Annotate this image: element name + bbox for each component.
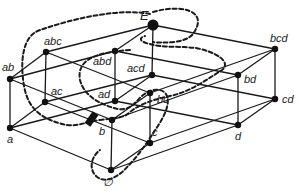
edge-E-acd	[152, 25, 153, 75]
node-bc	[147, 90, 153, 96]
label-ac: ac	[51, 85, 63, 97]
node-abd	[112, 48, 118, 54]
node-b	[109, 117, 115, 123]
label-ad: ad	[98, 88, 111, 100]
edge-cd-c	[150, 99, 275, 143]
node-ab	[7, 76, 13, 82]
node-acd	[149, 72, 155, 78]
label-empty: ∅	[103, 176, 113, 188]
label-ab: ab	[2, 61, 14, 73]
label-bd: bd	[244, 73, 257, 85]
label-acd: acd	[127, 62, 146, 74]
label-bcd: bcd	[270, 32, 289, 44]
node-cd	[272, 96, 278, 102]
node-d	[235, 122, 241, 128]
edge-ac-c	[45, 102, 150, 143]
label-b: b	[99, 125, 105, 137]
node-empty	[108, 167, 114, 173]
label-c: c	[152, 126, 158, 138]
node-E	[148, 20, 159, 31]
edge-acd-ad	[115, 75, 152, 101]
edge-abc-ac	[45, 52, 46, 102]
label-bc: bc	[157, 93, 169, 105]
label-abc: abc	[44, 35, 62, 47]
label-cd: cd	[282, 93, 295, 105]
label-a: a	[7, 133, 13, 145]
node-a	[7, 125, 13, 131]
edge-a-empty	[10, 128, 111, 170]
edge-cd-d	[238, 99, 275, 125]
edge-E-abc	[46, 25, 153, 52]
label-abd: abd	[93, 55, 112, 67]
edge-abc-ab	[10, 52, 46, 79]
lattice-diagram: E abc abd acd bcd ab ac ad bc bd cd a b …	[0, 0, 299, 195]
edge-E-bcd	[153, 25, 275, 49]
node-ad	[112, 98, 118, 104]
lattice-labels: E abc abd acd bcd ab ac ad bc bd cd a b …	[2, 8, 295, 188]
label-E: E	[140, 8, 149, 23]
node-abc	[43, 49, 49, 55]
node-bd	[235, 72, 241, 78]
node-ac	[42, 99, 48, 105]
edge-bcd-bd	[238, 49, 275, 75]
label-d: d	[235, 130, 242, 142]
node-c	[147, 140, 153, 146]
edge-E-abd	[115, 25, 153, 51]
node-bcd	[272, 46, 278, 52]
dashed-region-E-loop	[153, 9, 198, 43]
